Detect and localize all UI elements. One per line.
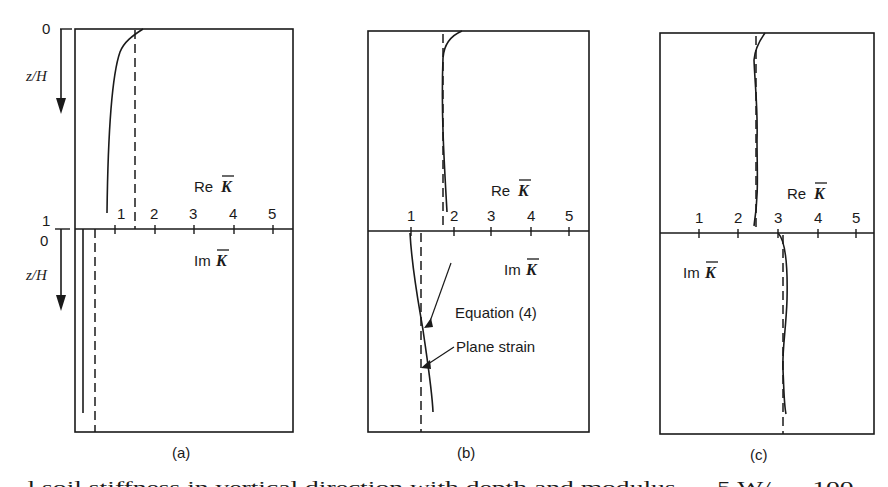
svg-text:Equation (4): Equation (4)	[455, 304, 537, 321]
tick-label: 4	[814, 209, 822, 226]
svg-text:Im: Im	[194, 252, 211, 269]
im-k-label-a: Im K	[194, 250, 229, 269]
tick-label: 5	[565, 207, 573, 224]
tick-label: 1	[117, 205, 125, 222]
panel-label-a: (a)	[172, 444, 190, 461]
arrow-down-icon	[56, 98, 66, 114]
svg-text:K: K	[525, 261, 538, 278]
svg-text:Re: Re	[194, 178, 213, 195]
tick-label: 1	[695, 209, 703, 226]
re-equation4-b	[442, 31, 462, 212]
im-k-label-c: Im K	[683, 262, 718, 281]
depth-axis-im-a: 1 0 z/H	[25, 212, 70, 311]
depth-zero-label: 0	[42, 20, 50, 37]
re-k-label-c: Re K	[787, 183, 827, 202]
re-k-label-b: Re K	[491, 180, 531, 199]
svg-text:Re: Re	[787, 185, 806, 202]
panel-label-c: (c)	[750, 446, 768, 463]
depth-zero-label: 0	[40, 232, 48, 249]
re-k-label-a: Re K	[194, 176, 234, 195]
depth-one-label: 1	[42, 212, 50, 229]
svg-text:K: K	[215, 252, 228, 269]
tick-label: 1	[407, 207, 415, 224]
tick-label: 5	[268, 205, 276, 222]
arrow-icon	[424, 318, 433, 328]
arrow-icon	[421, 360, 431, 369]
tick-label: 2	[150, 205, 158, 222]
re-equation4-a	[107, 29, 143, 213]
tick-label: 3	[189, 205, 197, 222]
annotation-plane-strain: Plane strain	[421, 338, 535, 369]
svg-text:K: K	[704, 264, 717, 281]
tick-label: 3	[487, 207, 495, 224]
panel-a: 0 z/H 1 0 z/H 1 2 3 4 5	[25, 20, 293, 461]
svg-text:Re: Re	[491, 182, 510, 199]
depth-axis-label: z/H	[25, 267, 48, 283]
svg-text:…l soil stiffness in vertical: …l soil stiffness in vertical direction …	[0, 478, 888, 487]
panel-label-b: (b)	[457, 444, 475, 461]
figure-canvas: 0 z/H 1 0 z/H 1 2 3 4 5	[0, 0, 888, 487]
svg-text:K: K	[813, 185, 826, 202]
svg-text:Im: Im	[504, 261, 521, 278]
plot-frame-a	[75, 29, 293, 432]
panel-c: 1 2 3 4 5 Re K Im K (c)	[660, 33, 874, 463]
arrow-down-icon	[56, 295, 66, 311]
tick-label: 2	[450, 207, 458, 224]
panel-b: 1 2 3 4 5 Re K Im K Equation (4)	[368, 31, 589, 461]
depth-axis-label: z/H	[25, 68, 48, 84]
svg-text:Plane strain: Plane strain	[456, 338, 535, 355]
tick-label: 4	[229, 205, 237, 222]
im-k-label-b: Im K	[504, 259, 539, 278]
tick-label: 2	[734, 209, 742, 226]
tick-label: 3	[774, 209, 782, 226]
svg-text:Im: Im	[683, 264, 700, 281]
svg-text:K: K	[220, 178, 233, 195]
depth-axis-re-a: 0 z/H	[25, 20, 72, 114]
tick-label: 5	[852, 209, 860, 226]
figure-caption: …l soil stiffness in vertical direction …	[0, 478, 888, 487]
tick-label: 4	[527, 207, 535, 224]
svg-text:K: K	[517, 182, 530, 199]
